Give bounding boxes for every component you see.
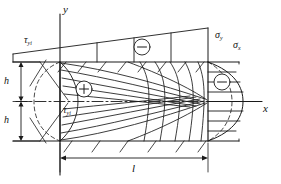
stress-trajectories-lower [61,96,205,140]
tau-yi-upper-label: τyi [24,35,32,46]
figure-canvas: y x τyi τyi σy σx h h l [0,0,281,184]
tau-subscript-lower: yi [67,110,71,116]
l-label: l [132,163,135,174]
bottom-hatch-ticks [64,141,206,152]
sigma-y-label: σy [215,30,223,41]
sigma-subscript-y: y [220,35,223,41]
x-axis-label: x [263,103,268,114]
sigma-subscript-x: x [238,45,241,51]
sigma-x-label: σx [233,40,241,51]
tau-yi-lower-label: τyi [63,105,71,116]
diagram-svg [0,0,281,184]
top-stress-wedge [13,28,208,62]
y-axis-label: y [63,4,68,15]
sign-circle-top [134,39,150,55]
h-label-upper: h [4,76,9,86]
h-label-lower: h [4,115,9,125]
sign-circle-right [214,74,230,90]
sign-circle-mid [76,81,92,97]
tau-subscript-upper: yi [28,40,32,46]
